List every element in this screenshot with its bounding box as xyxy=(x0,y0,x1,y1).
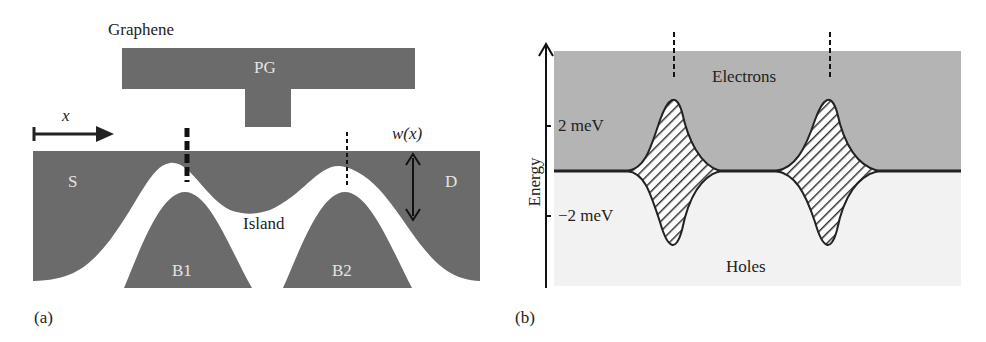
tick-label-neg: −2 meV xyxy=(558,206,613,226)
electrons-label: Electrons xyxy=(712,67,776,87)
holes-label: Holes xyxy=(726,257,766,277)
panel-b-diagram xyxy=(0,0,986,342)
energy-axis-label: Energy xyxy=(525,147,545,217)
panel-b-caption: (b) xyxy=(515,308,535,328)
tick-label-pos: 2 meV xyxy=(558,116,604,136)
